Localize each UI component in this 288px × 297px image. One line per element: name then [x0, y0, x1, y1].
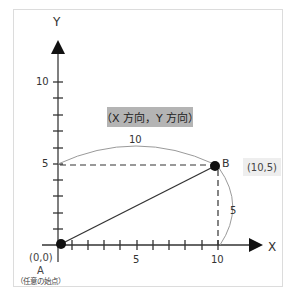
point-a-label: A — [37, 266, 44, 276]
vertical-distance-label: 5 — [230, 206, 236, 216]
y-axis-label: Y — [53, 16, 60, 28]
point-b-coords: (10,5) — [243, 158, 281, 176]
horizontal-distance-label: 10 — [129, 135, 142, 145]
x-tick-label-10: 10 — [211, 255, 224, 265]
y-tick-label-10: 10 — [36, 77, 49, 87]
point-b-label: B — [222, 158, 230, 169]
y-tick-label-5: 5 — [42, 159, 48, 169]
direction-label: （X 方向，Y 方向） — [107, 107, 193, 127]
x-tick-label-5: 5 — [133, 255, 139, 265]
point-a-caption: （任意の始点） — [16, 278, 65, 286]
x-axis-arrow-icon — [249, 238, 263, 252]
point-a-marker — [56, 239, 66, 249]
y-axis-arrow-icon — [51, 40, 65, 54]
x-axis-label: X — [268, 241, 276, 253]
vector-line-ab — [61, 166, 215, 244]
horizontal-distance-arc — [58, 146, 214, 164]
point-b-marker — [210, 161, 220, 171]
point-a-coords: (0,0) — [29, 253, 53, 263]
